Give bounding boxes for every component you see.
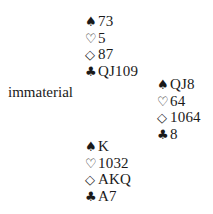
south-hearts: 1032 bbox=[98, 155, 129, 172]
north-spades: 73 bbox=[98, 13, 113, 30]
south-diamonds: AKQ bbox=[98, 171, 131, 188]
east-hand: ♠ QJ8 ♡ 64 ◇ 1064 ♣ 8 bbox=[157, 76, 201, 142]
east-hearts-row: ♡ 64 bbox=[157, 93, 201, 110]
north-diamonds-row: ◇ 87 bbox=[85, 46, 138, 63]
south-spades-row: ♠ K bbox=[85, 138, 131, 155]
spade-icon: ♠ bbox=[85, 14, 98, 31]
east-spades-row: ♠ QJ8 bbox=[157, 76, 201, 93]
east-clubs: 8 bbox=[170, 126, 178, 143]
north-hearts-row: ♡ 5 bbox=[85, 30, 138, 47]
north-hearts: 5 bbox=[98, 30, 106, 47]
north-clubs-row: ♣ QJ109 bbox=[85, 63, 138, 80]
east-spades: QJ8 bbox=[170, 76, 195, 93]
spade-icon: ♠ bbox=[157, 77, 170, 94]
south-clubs: A7 bbox=[98, 188, 117, 205]
south-spades: K bbox=[98, 138, 109, 155]
heart-icon: ♡ bbox=[85, 156, 98, 173]
south-hand: ♠ K ♡ 1032 ◇ AKQ ♣ A7 bbox=[85, 138, 131, 204]
east-hearts: 64 bbox=[170, 93, 185, 110]
south-diamonds-row: ◇ AKQ bbox=[85, 171, 131, 188]
west-hand-label: immaterial bbox=[8, 84, 73, 101]
north-diamonds: 87 bbox=[98, 46, 113, 63]
south-hearts-row: ♡ 1032 bbox=[85, 155, 131, 172]
north-hand: ♠ 73 ♡ 5 ◇ 87 ♣ QJ109 bbox=[85, 13, 138, 79]
club-icon: ♣ bbox=[157, 127, 170, 144]
club-icon: ♣ bbox=[85, 64, 98, 81]
club-icon: ♣ bbox=[85, 189, 98, 206]
diamond-icon: ◇ bbox=[85, 47, 98, 64]
spade-icon: ♠ bbox=[85, 139, 98, 156]
north-clubs: QJ109 bbox=[98, 63, 138, 80]
heart-icon: ♡ bbox=[85, 31, 98, 48]
diamond-icon: ◇ bbox=[85, 172, 98, 189]
north-spades-row: ♠ 73 bbox=[85, 13, 138, 30]
east-diamonds-row: ◇ 1064 bbox=[157, 109, 201, 126]
diamond-icon: ◇ bbox=[157, 110, 170, 127]
east-clubs-row: ♣ 8 bbox=[157, 126, 201, 143]
heart-icon: ♡ bbox=[157, 94, 170, 111]
south-clubs-row: ♣ A7 bbox=[85, 188, 131, 205]
east-diamonds: 1064 bbox=[170, 109, 201, 126]
